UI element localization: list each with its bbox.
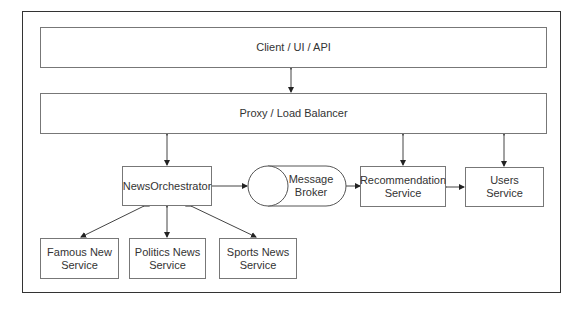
sports-label-line2: Service — [227, 259, 289, 272]
proxy-load-balancer-box: Proxy / Load Balancer — [40, 93, 547, 134]
famous-label-line2: Service — [47, 259, 112, 272]
users-label-line1: Users — [486, 174, 523, 187]
recommendation-label-line1: Recommendation — [360, 174, 446, 187]
famous-news-service-box: Famous New Service — [40, 238, 119, 279]
client-label: Client / UI / API — [256, 41, 331, 54]
proxy-label: Proxy / Load Balancer — [239, 107, 347, 120]
sports-news-service-box: Sports News Service — [219, 238, 297, 279]
news-orchestrator-box: NewsOrchestrator — [122, 166, 212, 206]
orchestrator-label: NewsOrchestrator — [123, 180, 212, 193]
famous-label-line1: Famous New — [47, 246, 112, 259]
broker-label-line2: Broker — [286, 186, 336, 199]
recommendation-service-box: Recommendation Service — [360, 166, 446, 207]
users-service-box: Users Service — [465, 167, 544, 207]
client-ui-api-box: Client / UI / API — [40, 27, 547, 68]
politics-label-line2: Service — [135, 259, 200, 272]
politics-news-service-box: Politics News Service — [129, 238, 206, 279]
message-broker-label: Message Broker — [286, 173, 336, 199]
broker-label-line1: Message — [286, 173, 336, 186]
sports-label-line1: Sports News — [227, 246, 289, 259]
recommendation-label-line2: Service — [360, 187, 446, 200]
politics-label-line1: Politics News — [135, 246, 200, 259]
users-label-line2: Service — [486, 187, 523, 200]
